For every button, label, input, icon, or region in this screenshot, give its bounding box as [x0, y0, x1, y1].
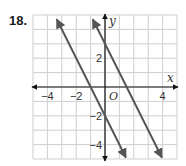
x-tick-label: 4 — [160, 90, 166, 102]
y-tick-label: −4 — [89, 139, 102, 151]
line-1 — [57, 19, 126, 157]
y-tick-label: −2 — [89, 110, 102, 122]
x-tick-label: −4 — [41, 90, 54, 102]
x-axis-label: x — [167, 71, 174, 85]
plotted-lines — [57, 19, 162, 157]
coordinate-graph: −4−242−2−4 x y O — [0, 0, 186, 166]
origin-label: O — [109, 90, 118, 103]
y-axis-label: y — [108, 14, 116, 28]
line-2 — [93, 19, 162, 157]
y-tick-label: 2 — [96, 52, 102, 64]
x-tick-label: −2 — [70, 90, 83, 102]
axes — [32, 14, 178, 161]
